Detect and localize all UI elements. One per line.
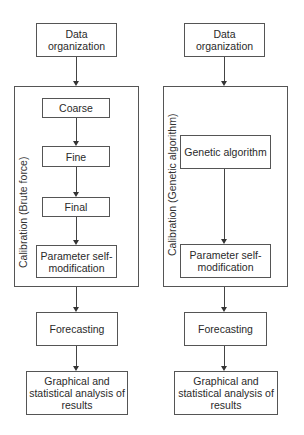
- fine-label: Fine: [66, 151, 86, 163]
- right-forecasting-label: Forecasting: [198, 323, 253, 335]
- left-arrow-1: [76, 57, 77, 81]
- right-arrow-2: [224, 169, 225, 239]
- right-forecasting-box: Forecasting: [184, 312, 267, 346]
- right-parameter-box: Parameter self-modification: [180, 244, 271, 278]
- right-data-organization-box: Data organization: [184, 23, 265, 57]
- left-calibration-label: Calibration (Brute force): [17, 157, 29, 268]
- final-box: Final: [42, 197, 110, 217]
- left-arrow-2: [76, 118, 77, 141]
- right-arrow-1: [224, 57, 225, 81]
- left-arrow-4: [76, 217, 77, 240]
- left-parameter-label: Parameter self-modification: [39, 250, 114, 274]
- left-forecasting-box: Forecasting: [36, 312, 118, 346]
- genetic-algorithm-box: Genetic algorithm: [180, 135, 271, 169]
- left-parameter-box: Parameter self-modification: [36, 245, 117, 278]
- right-arrow-4: [224, 346, 225, 366]
- left-arrow-6: [76, 346, 77, 366]
- left-arrow-3: [76, 167, 77, 192]
- left-data-organization-box: Data organization: [36, 23, 117, 57]
- left-analysis-label: Graphical and statistical analysis of re…: [29, 375, 125, 411]
- right-analysis-label: Graphical and statistical analysis of re…: [177, 375, 275, 411]
- final-label: Final: [65, 201, 88, 213]
- coarse-label: Coarse: [59, 102, 93, 114]
- coarse-box: Coarse: [42, 98, 110, 118]
- genetic-algorithm-label: Genetic algorithm: [184, 146, 266, 158]
- left-arrow-5: [76, 287, 77, 307]
- left-data-organization-label: Data organization: [39, 28, 114, 52]
- fine-box: Fine: [42, 146, 110, 167]
- left-forecasting-label: Forecasting: [50, 323, 105, 335]
- left-analysis-box: Graphical and statistical analysis of re…: [26, 371, 128, 415]
- right-analysis-box: Graphical and statistical analysis of re…: [174, 371, 278, 415]
- right-data-organization-label: Data organization: [187, 28, 262, 52]
- right-parameter-label: Parameter self-modification: [183, 249, 268, 273]
- right-calibration-label: Calibration (Genetic algorithm): [166, 114, 178, 256]
- right-arrow-3: [224, 287, 225, 307]
